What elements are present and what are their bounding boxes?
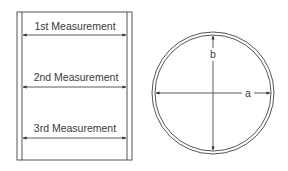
- dimension-b-label: b: [210, 48, 216, 60]
- measurement-1-label: 1st Measurement: [34, 20, 115, 32]
- measurement-3: 3rd Measurement: [23, 122, 126, 138]
- measurement-2: 2nd Measurement: [23, 71, 126, 87]
- measurement-diagram: 1st Measurement 2nd Measurement 3rd Meas…: [0, 0, 288, 171]
- cylinder-side-view: 1st Measurement 2nd Measurement 3rd Meas…: [17, 12, 132, 160]
- measurement-2-label: 2nd Measurement: [34, 71, 119, 83]
- cylinder-top-view: b a: [152, 32, 274, 154]
- measurement-3-label: 3rd Measurement: [34, 122, 116, 134]
- measurement-1: 1st Measurement: [23, 20, 126, 35]
- dimension-a-label: a: [245, 87, 251, 99]
